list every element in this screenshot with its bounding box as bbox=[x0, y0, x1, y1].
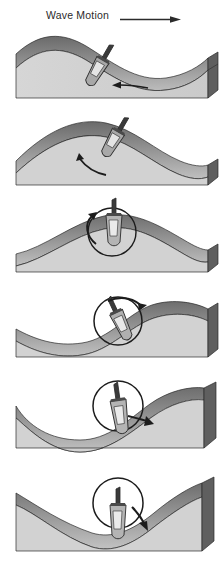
boat bbox=[106, 198, 122, 246]
block-side-face bbox=[208, 52, 218, 98]
block-side-face bbox=[202, 477, 214, 551]
right-arrow-icon bbox=[120, 15, 182, 24]
boat bbox=[110, 487, 126, 539]
wave-motion-figure: Wave Motion bbox=[0, 0, 222, 568]
panel-6 bbox=[0, 461, 222, 561]
panel-4 bbox=[0, 283, 222, 365]
panel-1 bbox=[0, 26, 222, 106]
panel-3 bbox=[0, 196, 222, 278]
block-side-face bbox=[208, 303, 218, 357]
panel-2 bbox=[0, 111, 222, 191]
boat bbox=[108, 381, 131, 434]
block-side-face bbox=[208, 244, 218, 272]
wave-motion-label: Wave Motion bbox=[46, 9, 109, 21]
block-side-face bbox=[204, 382, 216, 448]
figure-header: Wave Motion bbox=[0, 6, 222, 28]
block-side-face bbox=[208, 159, 218, 185]
panel-5 bbox=[0, 370, 222, 456]
